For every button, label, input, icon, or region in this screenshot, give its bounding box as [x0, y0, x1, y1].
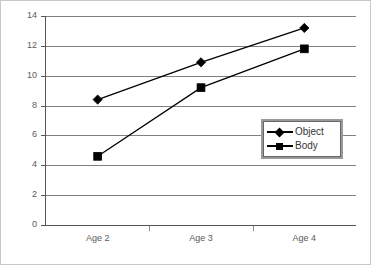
x-axis-tick-label: Age 3: [156, 233, 246, 243]
y-axis-tick: [41, 106, 46, 107]
y-axis-tick-label: 10: [11, 71, 37, 80]
y-axis-tick: [41, 135, 46, 136]
y-axis-tick: [41, 195, 46, 196]
legend-item-object: Object: [267, 125, 336, 139]
data-point-body-0: [94, 152, 102, 160]
series-line-object: [98, 28, 305, 100]
legend-label-body: Body: [293, 140, 318, 152]
gridline: [46, 106, 356, 107]
y-axis-tick-label: 12: [11, 41, 37, 50]
y-axis-tick: [41, 76, 46, 77]
gridline: [46, 195, 356, 196]
data-point-object-2: [300, 23, 309, 32]
legend-item-body: Body: [267, 139, 336, 153]
data-point-object-0: [93, 95, 102, 104]
y-axis-tick-label: 2: [11, 190, 37, 199]
gridline: [46, 225, 356, 226]
chart-legend: Object Body: [263, 121, 341, 157]
legend-label-object: Object: [293, 126, 324, 138]
y-axis-tick-label: 8: [11, 101, 37, 110]
y-axis-tick: [41, 16, 46, 17]
diamond-marker-icon: [267, 126, 293, 138]
x-axis-tick-label: Age 2: [53, 233, 143, 243]
y-axis-tick-label: 4: [11, 160, 37, 169]
gridline: [46, 46, 356, 47]
y-axis-tick-label: 6: [11, 130, 37, 139]
x-axis-tick: [149, 226, 150, 231]
y-axis-tick: [41, 165, 46, 166]
chart-figure: 02468101214 Age 2Age 3Age 4 Object Body: [0, 0, 371, 265]
y-axis-tick-label: 14: [11, 11, 37, 20]
y-axis-tick-label: 0: [11, 220, 37, 229]
y-axis-tick: [41, 46, 46, 47]
data-point-object-1: [196, 58, 205, 67]
gridline: [46, 76, 356, 77]
x-axis-tick-label: Age 4: [259, 233, 349, 243]
square-marker-icon: [267, 140, 293, 152]
gridline: [46, 16, 356, 17]
y-axis-tick: [41, 225, 46, 226]
gridline: [46, 165, 356, 166]
x-axis-tick: [253, 226, 254, 231]
data-point-body-1: [197, 84, 205, 92]
